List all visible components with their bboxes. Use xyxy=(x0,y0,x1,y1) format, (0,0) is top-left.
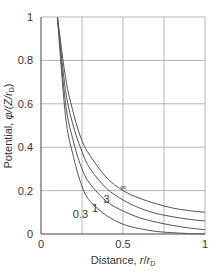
curve-label: 1 xyxy=(92,202,98,214)
y-tick-label: 0.4 xyxy=(18,141,33,153)
curves xyxy=(57,17,205,234)
curve-1 xyxy=(57,17,205,230)
y-tick-label: 0.8 xyxy=(18,54,33,66)
curve-labels: ∞310.3 xyxy=(73,183,126,220)
y-tick-label: 1 xyxy=(27,11,33,23)
curve-label: ∞ xyxy=(120,183,126,192)
tick-labels: 00.5100.20.40.60.81 xyxy=(18,11,208,250)
y-tick-label: 0.6 xyxy=(18,98,33,110)
x-axis-label: Distance, r/rD xyxy=(91,254,155,267)
curve-∞ xyxy=(57,17,205,212)
curve-label: 0.3 xyxy=(73,208,88,220)
curve-label: 3 xyxy=(104,193,110,205)
x-tick-label: 0 xyxy=(38,238,44,250)
y-axis-label: Potential, φ/(Z/rD) xyxy=(2,84,15,169)
x-tick-label: 0.5 xyxy=(115,238,130,250)
potential-distance-chart: ∞310.3 00.5100.20.40.60.81 Distance, r/r… xyxy=(0,0,216,276)
curve-0.3 xyxy=(57,17,205,234)
grid-lines xyxy=(41,17,205,234)
y-tick-label: 0 xyxy=(27,228,33,240)
x-tick-label: 1 xyxy=(202,238,208,250)
y-tick-label: 0.2 xyxy=(18,185,33,197)
